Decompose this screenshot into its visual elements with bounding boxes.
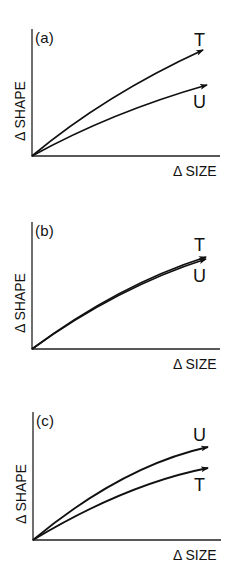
panel-b-bottom-series-label: U [193, 267, 206, 285]
panel-c-x-axis-label: Δ SIZE [173, 548, 217, 562]
panel-b-letter: (b) [35, 223, 54, 238]
panel-c-top-series-label: U [193, 426, 206, 444]
panel-b [0, 0, 231, 195]
panel-c-letter: (c) [36, 413, 54, 428]
panel-c-y-axis-label: Δ SHAPE [14, 464, 28, 524]
panel-b-axes [32, 222, 220, 349]
panel-b-x-axis-label: Δ SIZE [173, 357, 217, 371]
panel-b-curve-u [32, 259, 206, 349]
panel-b-curve-t [32, 257, 206, 349]
panel-c-curve-u [33, 447, 208, 540]
panel-b-top-series-label: T [194, 236, 205, 254]
panel-b-y-axis-label: Δ SHAPE [13, 273, 27, 333]
panel-c-curve-t [33, 468, 208, 540]
panel-c-bottom-series-label: T [194, 476, 205, 494]
